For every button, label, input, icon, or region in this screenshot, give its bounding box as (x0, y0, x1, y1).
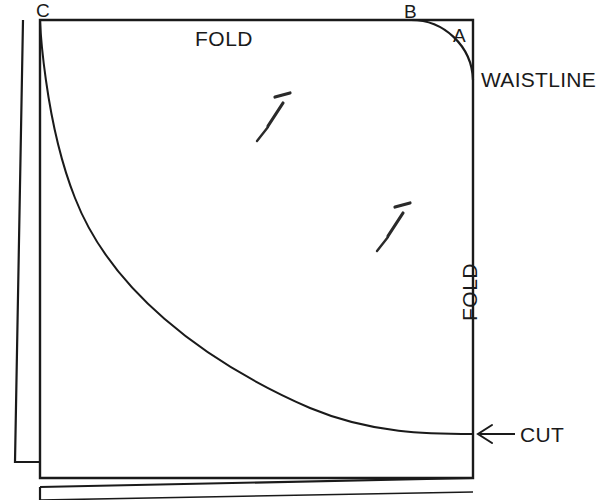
pattern-diagram-figure: C B A FOLD FOLD WAISTLINE CUT (0, 0, 599, 500)
hem-cut-curve (40, 20, 473, 434)
pin-point (377, 237, 388, 251)
lower-figure-top-edge (40, 478, 473, 487)
lower-figure-second-edge (40, 492, 473, 500)
paper-underlayer-outline (15, 20, 40, 462)
fold-label-top: FOLD (195, 28, 253, 49)
pin-point (257, 127, 268, 141)
fold-label-right: FOLD (459, 263, 480, 321)
pin-shaft (268, 103, 283, 126)
fabric-rectangle (40, 20, 473, 478)
corner-label-c: C (36, 1, 50, 20)
pin-head (395, 203, 410, 207)
corner-label-b: B (404, 2, 417, 21)
pin-icon (377, 203, 410, 251)
pin-head (275, 93, 290, 97)
waistline-label: WAISTLINE (481, 69, 596, 90)
corner-label-a: A (453, 26, 466, 45)
fabric-rect-outline (40, 20, 473, 478)
underlayer-left-edge (15, 20, 40, 462)
cut-label: CUT (520, 424, 564, 445)
hem-cut-curve-path (40, 20, 473, 434)
pin-shaft (388, 213, 403, 236)
cut-arrow-icon (478, 425, 515, 443)
lower-figure-fragment (40, 478, 473, 500)
pin-icon (257, 93, 290, 141)
